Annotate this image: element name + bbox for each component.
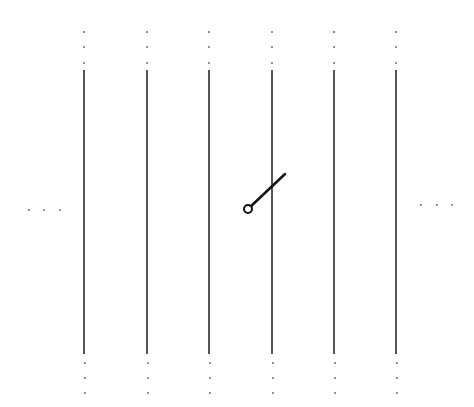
dot: [395, 62, 397, 64]
ellipsis-dot-right: [451, 204, 453, 206]
dot: [271, 46, 273, 48]
dot: [395, 31, 397, 33]
ellipsis-dot-right: [436, 204, 438, 206]
ellipsis-dot-left: [43, 209, 45, 211]
dot: [334, 362, 336, 364]
dot: [272, 392, 274, 394]
ellipsis-dot-right: [420, 204, 422, 206]
ellipsis-dot-left: [28, 209, 30, 211]
dot: [147, 362, 149, 364]
dot: [84, 392, 86, 394]
switch-blade: [251, 174, 285, 206]
dot: [208, 46, 210, 48]
dot: [147, 377, 149, 379]
dot: [146, 46, 148, 48]
dot: [146, 31, 148, 33]
dot: [83, 31, 85, 33]
dot: [84, 377, 86, 379]
dot: [83, 46, 85, 48]
dot: [271, 62, 273, 64]
dot: [272, 362, 274, 364]
switch-pivot: [244, 205, 252, 213]
dot: [395, 46, 397, 48]
dot: [208, 62, 210, 64]
dot: [83, 62, 85, 64]
dot: [146, 62, 148, 64]
dot: [208, 31, 210, 33]
dot: [209, 392, 211, 394]
dot: [333, 62, 335, 64]
dot: [272, 377, 274, 379]
conductor-lines: [84, 70, 396, 354]
dot: [333, 31, 335, 33]
dot: [84, 362, 86, 364]
dot: [334, 392, 336, 394]
dot: [396, 377, 398, 379]
dot: [147, 392, 149, 394]
switch-diagram: [0, 0, 474, 407]
dot: [271, 31, 273, 33]
dot: [209, 362, 211, 364]
ellipsis-dot-left: [59, 209, 61, 211]
dot: [334, 377, 336, 379]
switch-lever-icon: [244, 174, 285, 213]
dot: [209, 377, 211, 379]
dot: [396, 392, 398, 394]
dot: [333, 46, 335, 48]
continuation-dots: [28, 31, 453, 394]
dot: [396, 362, 398, 364]
